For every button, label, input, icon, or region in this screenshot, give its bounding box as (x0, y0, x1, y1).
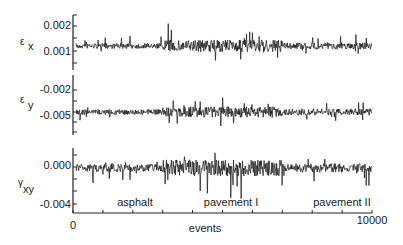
p3-ylabel-sub: xy (23, 183, 35, 195)
p1-tick-top: 0.002 (43, 19, 71, 31)
panel-gamma-xy: 0.000 -0.004 γ xy asphalt pavement I pav… (18, 148, 387, 234)
segment-label-pavement-1: pavement I (204, 196, 258, 208)
trace-gamma-xy (76, 153, 372, 199)
p2-ylabel-main: ε (20, 94, 25, 105)
x-tick-end: 10000 (357, 214, 388, 226)
panel-epsilon-x: 0.002 0.001 ε x (20, 15, 372, 70)
x-axis-label: events (189, 222, 222, 234)
panel-epsilon-y: -0.002 -0.005 ε y (20, 75, 372, 135)
p2-tick-mid: -0.005 (40, 109, 71, 121)
trace-epsilon-y (76, 98, 372, 126)
p3-tick-top: 0.000 (43, 159, 71, 171)
p3-tick-bot: -0.004 (40, 198, 71, 210)
chart-canvas: 0.002 0.001 ε x -0.002 -0.005 ε y 0.000 … (0, 0, 403, 245)
p1-ylabel-main: ε (20, 36, 25, 47)
p2-tick-top: -0.002 (40, 83, 71, 95)
segment-label-asphalt: asphalt (117, 196, 152, 208)
x-tick-start: 0 (70, 219, 76, 231)
p2-ylabel-sub: y (28, 99, 34, 111)
trace-epsilon-x (76, 24, 372, 61)
segment-label-pavement-2: pavement II (313, 196, 370, 208)
p1-ylabel-sub: x (28, 40, 34, 52)
p1-tick-mid: 0.001 (43, 45, 71, 57)
